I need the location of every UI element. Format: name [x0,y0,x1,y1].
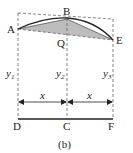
label-x-left: x [39,89,45,101]
shaded-triangle-region [18,19,113,40]
label-y2: y2 [55,67,65,81]
label-y3: y3 [102,67,112,81]
label-A: A [7,23,15,35]
label-E: E [116,34,123,46]
label-F: F [108,120,114,132]
trapezoid-area-diagram: A B E Q y1 y2 y3 x x D C F (b) [0,0,133,153]
label-x-right: x [86,89,92,101]
label-B: B [63,5,70,17]
label-Q: Q [57,37,65,49]
label-D: D [13,120,21,132]
figure-caption: (b) [58,138,71,151]
label-y1: y1 [5,67,14,81]
label-C: C [63,120,70,132]
